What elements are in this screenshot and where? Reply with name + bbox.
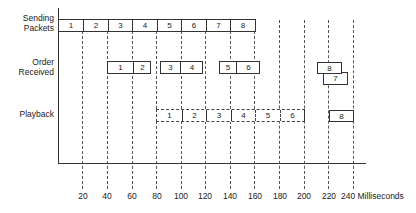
- sending-packets-label: Sending Packets: [2, 13, 54, 33]
- gridline-20: [82, 31, 83, 189]
- gridline-220: [328, 20, 329, 189]
- playback-label: Playback: [2, 109, 54, 119]
- tick-label: 180: [273, 191, 287, 201]
- tick-label: 40: [102, 191, 111, 201]
- label-line: Playback: [2, 109, 54, 119]
- received-packet: 2: [133, 62, 151, 73]
- gridline-240: [353, 20, 354, 189]
- received-packet-8: 8: [317, 62, 342, 74]
- received-group-3: 5 6: [219, 61, 260, 74]
- tick-label: 120: [198, 191, 212, 201]
- gridline-180: [279, 20, 280, 189]
- label-line: Order: [2, 57, 54, 67]
- playback-packet-8: 8: [329, 110, 354, 122]
- label-line: Packets: [2, 23, 54, 33]
- tick-label: 220: [322, 191, 336, 201]
- sending-packet: 8: [230, 20, 255, 31]
- playback-end-marker: [304, 109, 305, 122]
- playback-packet: 2: [182, 110, 206, 121]
- sending-packet: 5: [157, 20, 181, 31]
- label-line: Sending: [2, 13, 54, 23]
- received-group-1: 1 2: [107, 61, 151, 74]
- playback-packet: 3: [206, 110, 231, 121]
- gridline-200: [304, 20, 305, 189]
- sending-packet: 3: [108, 20, 132, 31]
- playback-strip: 1 2 3 4 5 6: [156, 109, 305, 122]
- label-line: Received: [2, 67, 54, 77]
- received-packet: 3: [161, 62, 180, 73]
- playback-packet: 4: [231, 110, 255, 121]
- tick-label: 200: [297, 191, 311, 201]
- tick-label: 160: [248, 191, 262, 201]
- x-axis: [58, 163, 366, 164]
- playback-packet: 5: [255, 110, 280, 121]
- order-received-label: Order Received: [2, 57, 54, 77]
- gridline-40: [107, 31, 108, 189]
- tick-label: 80: [152, 191, 161, 201]
- tick-label: 60: [127, 191, 136, 201]
- tick-label: 20: [78, 191, 87, 201]
- sending-packet: 1: [59, 20, 83, 31]
- sending-packet: 4: [132, 20, 157, 31]
- received-packet: 6: [236, 62, 260, 73]
- received-packet: 1: [108, 62, 133, 73]
- tick-label: 100: [174, 191, 188, 201]
- playback-packet: 6: [280, 110, 304, 121]
- sending-packet: 7: [206, 20, 230, 31]
- gridline-60: [132, 31, 133, 189]
- received-packet: 5: [220, 62, 236, 73]
- sending-packets-strip: 1 2 3 4 5 6 7 8: [58, 19, 256, 32]
- received-packet: 4: [180, 62, 203, 73]
- tick-label-last: 240 Milliseconds: [341, 191, 404, 201]
- received-group-2: 3 4: [160, 61, 203, 74]
- tick-label: 140: [223, 191, 237, 201]
- sending-packet: 2: [83, 20, 108, 31]
- sending-packet: 6: [181, 20, 206, 31]
- playback-packet: 1: [157, 110, 182, 121]
